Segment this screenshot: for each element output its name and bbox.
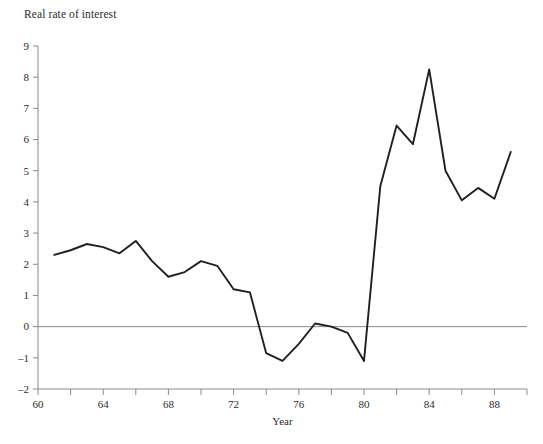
y-axis: –2–10123456789 [17,40,38,395]
x-tick-label: 80 [359,398,371,410]
series-line [54,69,510,361]
y-tick-label: 6 [24,133,30,145]
chart-container: Real rate of interest –2–10123456789 606… [0,0,543,444]
y-tick-label: 2 [24,258,30,270]
x-tick-label: 72 [228,398,239,410]
x-tick-label: 84 [424,398,436,410]
x-tick-label: 76 [293,398,305,410]
x-tick-label: 64 [98,398,110,410]
x-tick-label: 88 [489,398,501,410]
x-axis: 6064687276808488 [33,389,528,410]
x-tick-label: 60 [33,398,45,410]
y-tick-label: 3 [24,227,30,239]
y-tick-label: 4 [24,196,30,208]
y-tick-label: 5 [24,165,30,177]
y-tick-label: 9 [24,40,30,52]
y-tick-label: 0 [24,320,30,332]
data-series [54,69,510,361]
x-tick-label: 68 [163,398,175,410]
y-tick-label: 1 [24,289,30,301]
x-axis-label: Year [272,415,293,427]
y-tick-label: 8 [24,71,30,83]
y-tick-label: –2 [17,383,29,395]
y-tick-label: 7 [24,102,30,114]
y-tick-label: –1 [17,352,29,364]
line-chart-plot: –2–10123456789 6064687276808488 Year [0,0,543,444]
